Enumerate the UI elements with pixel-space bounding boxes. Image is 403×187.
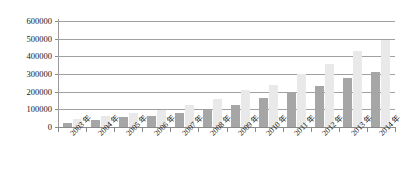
bar-group [311, 21, 339, 127]
y-tick-label: 500000 [0, 35, 52, 44]
bar [287, 92, 296, 127]
bar-group [86, 21, 114, 127]
bar-chart: 600000 500000 400000 300000 200000 10000… [0, 0, 403, 187]
bar-group [114, 21, 142, 127]
y-tick-label: 100000 [0, 105, 52, 114]
bar [381, 40, 390, 127]
y-tick-label: 400000 [0, 52, 52, 61]
x-tick-mark [395, 127, 396, 132]
bar-group [58, 21, 86, 127]
x-axis-tick-labels: 2003 年2004 年2005 年2006 年2007 年2008 年2009… [58, 132, 395, 187]
bar-group [142, 21, 170, 127]
bar [91, 120, 100, 127]
bar-groups [58, 21, 395, 127]
y-tick-label: 200000 [0, 88, 52, 97]
bar-group [170, 21, 198, 127]
y-tick-label: 600000 [0, 17, 52, 26]
bar-group [255, 21, 283, 127]
plot-area [58, 21, 395, 127]
bar [353, 51, 362, 127]
bar-group [367, 21, 395, 127]
y-tick-label: 300000 [0, 70, 52, 79]
bar-group [198, 21, 226, 127]
bar-group [226, 21, 254, 127]
bar [231, 105, 240, 127]
bar [259, 98, 268, 127]
bar-group [283, 21, 311, 127]
y-tick-label: 0 [0, 123, 52, 132]
y-axis-tick-labels: 600000 500000 400000 300000 200000 10000… [0, 0, 54, 187]
bar-group [339, 21, 367, 127]
bar [315, 86, 324, 127]
